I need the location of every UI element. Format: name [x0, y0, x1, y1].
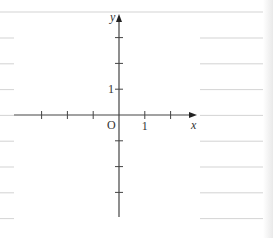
- coordinate-plane: x y O 1 1: [0, 0, 273, 238]
- y-tick-label-1: 1: [108, 82, 114, 96]
- y-axis-label: y: [109, 10, 116, 24]
- x-tick-label-1: 1: [142, 119, 148, 133]
- origin-label: O: [107, 118, 116, 132]
- worksheet-figure: x y O 1 1: [0, 0, 273, 238]
- y-axis-arrow-icon: [116, 14, 122, 22]
- ruled-lines: [0, 12, 267, 238]
- x-axis-label: x: [190, 118, 197, 132]
- axes-group: [14, 14, 197, 217]
- page-binding-shadow: [263, 0, 273, 238]
